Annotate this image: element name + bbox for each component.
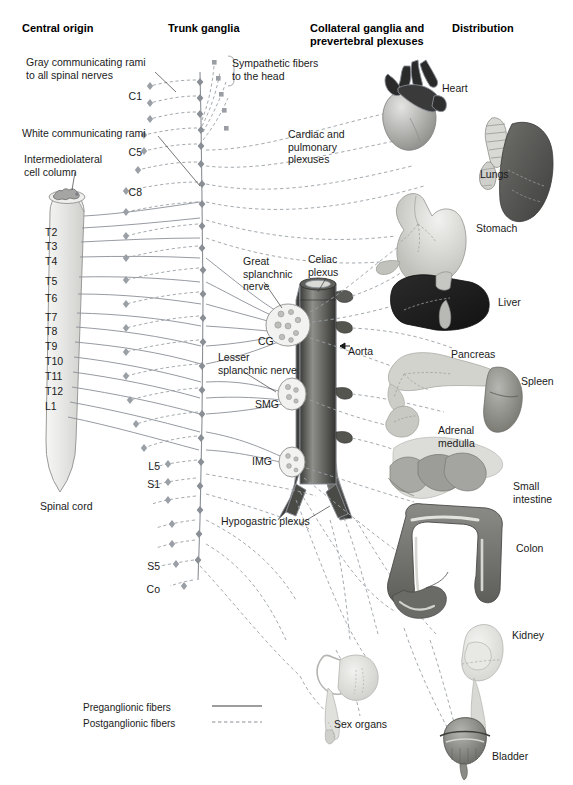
- column-header-distribution: Distribution: [452, 22, 514, 35]
- annotation-white-rami: White communicating rami: [22, 127, 146, 140]
- annotation-sympathetic-head: Sympathetic fibers to the head: [232, 57, 318, 82]
- organ-label-lungs: Lungs: [480, 168, 509, 181]
- spinal-segment-t7: T7: [45, 311, 57, 323]
- spinal-segment-t5: T5: [45, 275, 57, 287]
- annotation-cardiac-pulmonary: Cardiac and pulmonary plexuses: [288, 128, 345, 166]
- organ-label-stomach: Stomach: [476, 222, 517, 235]
- spinal-segment-t4: T4: [45, 255, 57, 267]
- ganglion-label-smg: SMG: [255, 398, 279, 410]
- annotation-great-splanchnic: Great splanchnic nerve: [243, 255, 293, 293]
- column-header-collateral-ganglia: Collateral ganglia and prevertebral plex…: [310, 22, 424, 48]
- column-header-trunk-ganglia: Trunk ganglia: [168, 22, 240, 35]
- annotation-spinal-cord: Spinal cord: [40, 500, 93, 513]
- column-header-central-origin: Central origin: [22, 22, 94, 35]
- organ-label-bladder: Bladder: [492, 750, 528, 763]
- organ-label-small-intestine: Small intestine: [513, 480, 552, 505]
- legend-label-preganglionic: Preganglionic fibers: [83, 702, 171, 713]
- spinal-segment-s1: S1: [147, 478, 160, 490]
- spinal-segment-t10: T10: [45, 355, 63, 367]
- annotation-hypogastric-plexus: Hypogastric plexus: [221, 515, 310, 528]
- spinal-segment-t2: T2: [45, 226, 57, 238]
- organ-label-sex-organs: Sex organs: [334, 718, 387, 731]
- organ-label-heart: Heart: [442, 82, 468, 95]
- annotation-lesser-splanchnic: Lesser splanchnic nerve: [218, 351, 297, 376]
- ganglion-label-img: IMG: [252, 455, 272, 467]
- spinal-segment-s5: S5: [147, 560, 160, 572]
- spinal-segment-l5: L5: [148, 460, 160, 472]
- spinal-segment-t11: T11: [45, 370, 62, 382]
- spinal-segment-c8: C8: [129, 186, 142, 198]
- spinal-segment-co: Co: [147, 583, 160, 595]
- spinal-segment-t6: T6: [45, 292, 57, 304]
- annotation-aorta: Aorta: [348, 345, 373, 358]
- spinal-segment-c1: C1: [129, 90, 142, 102]
- organ-label-colon: Colon: [516, 542, 543, 555]
- organ-label-pancreas: Pancreas: [451, 348, 495, 361]
- spinal-segment-l1: L1: [45, 400, 57, 412]
- figure-canvas: Central originTrunk gangliaCollateral ga…: [0, 0, 573, 785]
- spinal-segment-t8: T8: [45, 325, 57, 337]
- organ-label-liver: Liver: [498, 296, 521, 309]
- spinal-segment-t9: T9: [45, 340, 57, 352]
- spinal-segment-c5: C5: [129, 146, 142, 158]
- annotation-celiac-plexus: Celiac plexus: [308, 253, 338, 278]
- legend-label-postganglionic: Postganglionic fibers: [83, 718, 175, 729]
- organ-label-adrenal-medulla: Adrenal medulla: [438, 424, 475, 449]
- organ-label-spleen: Spleen: [521, 375, 554, 388]
- spinal-segment-t3: T3: [45, 240, 57, 252]
- organ-label-kidney: Kidney: [512, 629, 544, 642]
- ganglion-label-cg: CG: [258, 335, 274, 347]
- annotation-iml-column: Intermediolateral cell column: [24, 153, 102, 178]
- legend-lines: [0, 0, 573, 785]
- spinal-segment-t12: T12: [45, 385, 63, 397]
- annotation-gray-rami: Gray communicating rami to all spinal ne…: [26, 56, 146, 81]
